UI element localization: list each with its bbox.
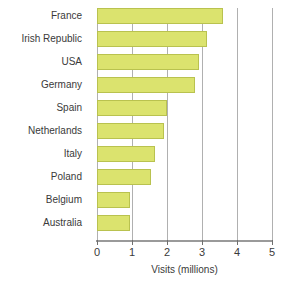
bar-france bbox=[97, 8, 223, 24]
bar-belgium bbox=[97, 192, 130, 208]
plot-area bbox=[97, 8, 272, 240]
category-label-usa: USA bbox=[61, 54, 82, 70]
category-label-belgium: Belgium bbox=[46, 192, 82, 208]
tick-mark-1 bbox=[132, 240, 133, 245]
tick-label-2: 2 bbox=[157, 246, 177, 258]
category-label-australia: Australia bbox=[43, 215, 82, 231]
bar-poland bbox=[97, 169, 151, 185]
tick-mark-3 bbox=[202, 240, 203, 245]
category-label-netherlands: Netherlands bbox=[28, 123, 82, 139]
category-axis: France Irish Republic USA Germany Spain … bbox=[0, 8, 88, 240]
bar-usa bbox=[97, 54, 199, 70]
x-axis-title: Visits (millions) bbox=[97, 264, 272, 275]
tick-label-5: 5 bbox=[262, 246, 282, 258]
category-label-germany: Germany bbox=[41, 77, 82, 93]
bar-italy bbox=[97, 146, 155, 162]
gridline-4 bbox=[237, 8, 238, 240]
tick-mark-5 bbox=[272, 240, 273, 245]
tick-mark-4 bbox=[237, 240, 238, 245]
value-axis-line bbox=[96, 240, 273, 242]
category-label-france: France bbox=[51, 8, 82, 24]
category-label-poland: Poland bbox=[51, 169, 82, 185]
bar-chart-figure: France Irish Republic USA Germany Spain … bbox=[0, 0, 289, 286]
bar-irish-republic bbox=[97, 31, 207, 47]
tick-mark-0 bbox=[97, 240, 98, 245]
tick-label-4: 4 bbox=[227, 246, 247, 258]
bar-germany bbox=[97, 77, 195, 93]
tick-label-3: 3 bbox=[192, 246, 212, 258]
category-label-irish-republic: Irish Republic bbox=[21, 31, 82, 47]
category-label-italy: Italy bbox=[64, 146, 82, 162]
bar-spain bbox=[97, 100, 167, 116]
gridline-5 bbox=[272, 8, 273, 240]
tick-mark-2 bbox=[167, 240, 168, 245]
bar-australia bbox=[97, 215, 130, 231]
bar-netherlands bbox=[97, 123, 164, 139]
tick-label-1: 1 bbox=[122, 246, 142, 258]
category-label-spain: Spain bbox=[56, 100, 82, 116]
tick-label-0: 0 bbox=[87, 246, 107, 258]
